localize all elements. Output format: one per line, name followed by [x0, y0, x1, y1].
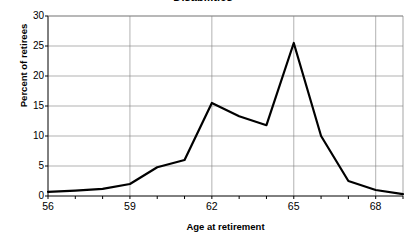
axis-tick-marks: [45, 16, 403, 199]
plot-area: [0, 0, 406, 240]
chart-container: Disabilities Percent of retirees Age at …: [0, 0, 406, 240]
horizontal-gridlines: [48, 16, 403, 166]
data-series-line: [48, 43, 403, 194]
